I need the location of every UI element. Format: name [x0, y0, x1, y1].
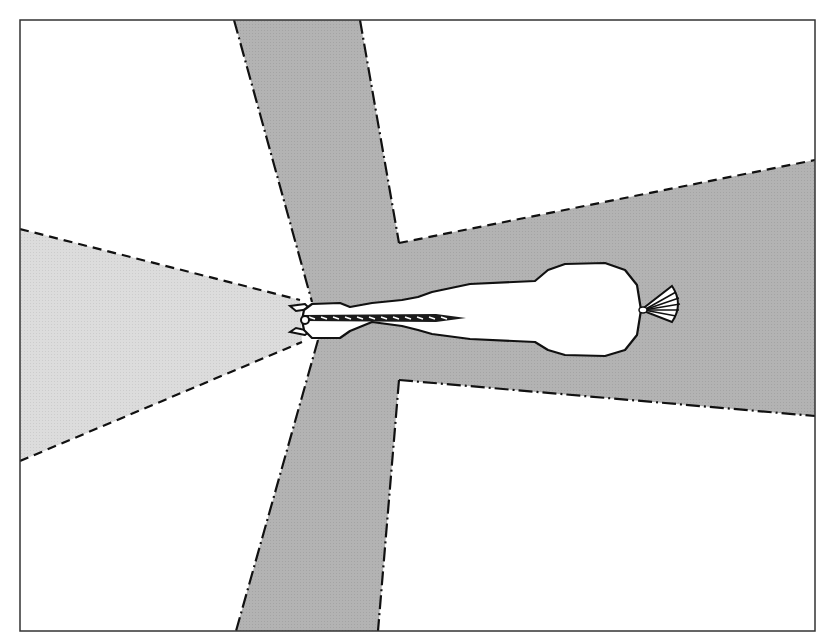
forelock [301, 316, 309, 324]
binocular-front-field-region [20, 229, 302, 461]
diagram-canvas [0, 0, 837, 640]
horse-vision-field-diagram [0, 0, 837, 640]
tail-base [639, 307, 647, 313]
